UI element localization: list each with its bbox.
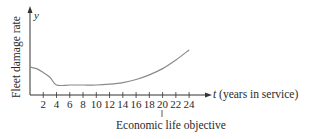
damage-rate-curve xyxy=(30,50,189,86)
y-axis-arrow-icon xyxy=(28,6,33,13)
y-axis-symbol: y xyxy=(34,9,39,21)
y-axis-label: Fleet damage rate xyxy=(10,12,24,102)
x-axis-label: t (years in service) xyxy=(213,88,298,100)
x-axis-suffix: (years in service) xyxy=(216,88,298,100)
economic-life-annotation: Economic life objective xyxy=(116,119,226,131)
x-axis-arrow-icon xyxy=(205,93,212,98)
x-tick-label: 24 xyxy=(181,98,197,110)
